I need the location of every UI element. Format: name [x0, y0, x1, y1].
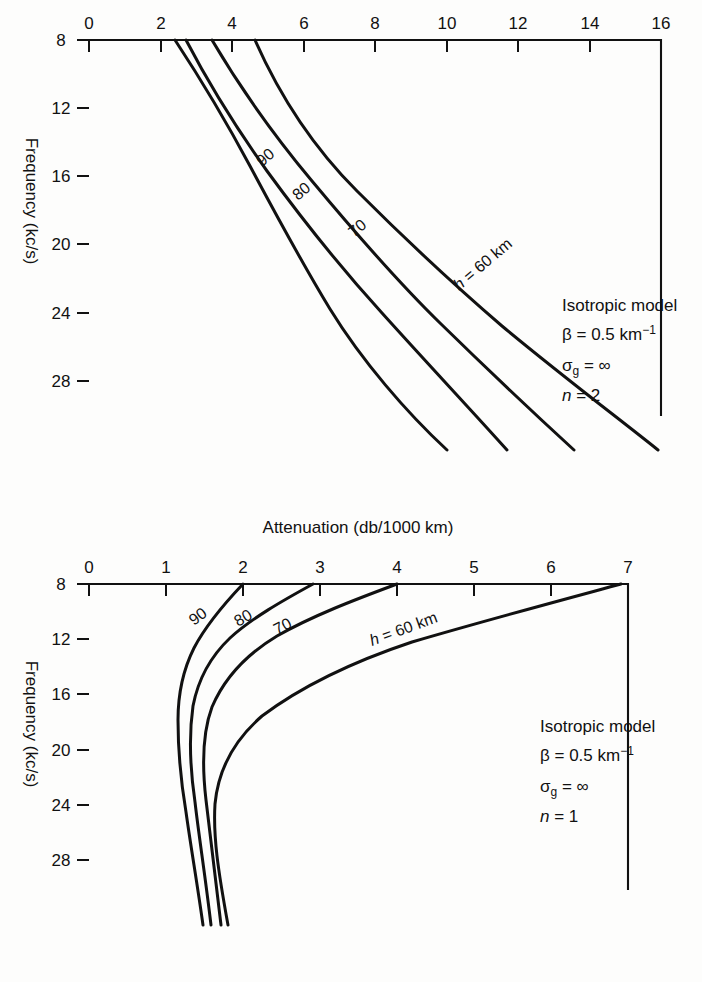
anno-sigma-value: = ∞	[562, 777, 589, 796]
axis-lines-n1	[89, 584, 628, 889]
curve-label-h60-n2: h = 60 km	[450, 235, 515, 293]
svg-text:β = 0.5 km−1: β = 0.5 km−1	[540, 744, 634, 765]
curve-label-text: = 60 km	[457, 235, 515, 288]
x-axis-title-n1: Frequency (kc/s)	[22, 661, 41, 788]
y-tick-label: 14	[581, 14, 600, 33]
anno-sigma-value: = ∞	[584, 356, 611, 375]
anno-title: Isotropic model	[562, 296, 677, 315]
anno-sigma-sub: g	[551, 785, 558, 799]
svg-text:80: 80	[289, 179, 314, 204]
x-tick-label: 8	[56, 575, 65, 594]
x-tick-label: 16	[52, 685, 71, 704]
y-tick-label: 7	[623, 558, 632, 577]
anno-n-value: = 1	[554, 807, 578, 826]
y-tick-label: 0	[84, 558, 93, 577]
x-tick-label: 28	[52, 372, 71, 391]
curve-label-h90-n1: 90	[186, 604, 211, 628]
svg-text:σg = ∞: σg = ∞	[540, 777, 589, 799]
figure-n1: 7 6 5 4 3 2 1 0 Attenuation (db/1000 km)	[0, 491, 702, 982]
anno-n-symbol: n	[562, 386, 571, 405]
curve-label-h70-n1: 70	[271, 614, 295, 637]
curve-label-h90-n2: 90	[253, 145, 278, 170]
svg-text:β = 0.5 km−1: β = 0.5 km−1	[562, 323, 656, 344]
curve-h80-n1	[191, 584, 313, 925]
scanned-figure-page: 16 14 12 10 8 6 4 2 0 Attenuation (db/10…	[0, 0, 702, 982]
x-ticks-n1	[77, 584, 89, 860]
y-axis-title-n1: Attenuation (db/1000 km)	[263, 518, 454, 537]
y-tick-label: 4	[392, 558, 401, 577]
y-tick-label: 3	[315, 558, 324, 577]
y-tick-labels-n2: 16 14 12 10 8 6 4 2 0	[84, 14, 670, 33]
curve-h80-n2	[186, 40, 507, 450]
anno-sigma: σ	[540, 777, 551, 796]
y-tick-label: 8	[370, 14, 379, 33]
y-tick-label: 5	[469, 558, 478, 577]
anno-n-value: = 2	[576, 386, 600, 405]
svg-text:70: 70	[345, 216, 370, 241]
x-tick-label: 24	[52, 304, 71, 323]
y-tick-label: 1	[161, 558, 170, 577]
x-tick-label: 12	[52, 630, 71, 649]
anno-sigma-sub: g	[573, 364, 580, 378]
svg-text:80: 80	[231, 606, 255, 630]
axis-lines-n2	[89, 40, 661, 415]
model-annotation-n1: Isotropic model β = 0.5 km−1 σg = ∞ n = …	[540, 717, 655, 826]
svg-text:70: 70	[271, 614, 295, 637]
x-tick-label: 16	[52, 167, 71, 186]
y-tick-label: 16	[652, 14, 671, 33]
x-ticks-n2	[77, 40, 89, 381]
curve-label-h80-n2: 80	[289, 179, 314, 204]
anno-sigma: σ	[562, 356, 573, 375]
figure-n2: 16 14 12 10 8 6 4 2 0 Attenuation (db/10…	[0, 0, 702, 491]
curve-label-text: = 60 km	[376, 609, 440, 646]
curve-h70-n2	[212, 40, 574, 450]
x-tick-label: 24	[52, 796, 71, 815]
y-tick-label: 6	[546, 558, 555, 577]
anno-beta: β = 0.5 km	[562, 325, 642, 344]
y-tick-labels-n1: 7 6 5 4 3 2 1 0	[84, 558, 632, 577]
y-ticks-n1	[89, 584, 628, 596]
curve-h90-n2	[175, 40, 447, 450]
y-tick-label: 2	[156, 14, 165, 33]
plot-area-n2: 16 14 12 10 8 6 4 2 0 Attenuation (db/10…	[0, 0, 702, 491]
y-tick-label: 4	[227, 14, 236, 33]
anno-beta-exponent: −1	[620, 744, 634, 758]
svg-text:h = 60 km: h = 60 km	[450, 235, 515, 293]
svg-text:h = 60 km: h = 60 km	[367, 609, 439, 649]
y-tick-label: 12	[509, 14, 528, 33]
x-tick-label: 20	[52, 741, 71, 760]
x-tick-label: 12	[52, 99, 71, 118]
anno-beta-exponent: −1	[642, 323, 656, 337]
svg-text:σg = ∞: σg = ∞	[562, 356, 611, 378]
svg-text:90: 90	[253, 145, 278, 170]
x-tick-label: 20	[52, 235, 71, 254]
x-tick-label: 28	[52, 851, 71, 870]
x-axis-title-n2: Frequency (kc/s)	[22, 138, 41, 265]
y-tick-label: 2	[238, 558, 247, 577]
y-tick-label: 0	[84, 14, 93, 33]
svg-text:90: 90	[186, 604, 211, 628]
plot-area-n1: 7 6 5 4 3 2 1 0 Attenuation (db/1000 km)	[0, 491, 702, 982]
svg-text:n = 2: n = 2	[562, 386, 600, 405]
curve-label-h60-n1: h = 60 km	[367, 609, 439, 649]
x-tick-labels-n2: 8 12 16 20 24 28	[52, 31, 71, 391]
anno-n-symbol: n	[540, 807, 549, 826]
curve-label-h70-n2: 70	[345, 216, 370, 241]
y-tick-label: 10	[438, 14, 457, 33]
anno-beta: β = 0.5 km	[540, 746, 620, 765]
svg-text:n = 1: n = 1	[540, 807, 578, 826]
anno-title: Isotropic model	[540, 717, 655, 736]
x-tick-labels-n1: 8 12 16 20 24 28	[52, 575, 71, 870]
curve-label-h80-n1: 80	[231, 606, 255, 630]
y-tick-label: 6	[299, 14, 308, 33]
x-tick-label: 8	[56, 31, 65, 50]
